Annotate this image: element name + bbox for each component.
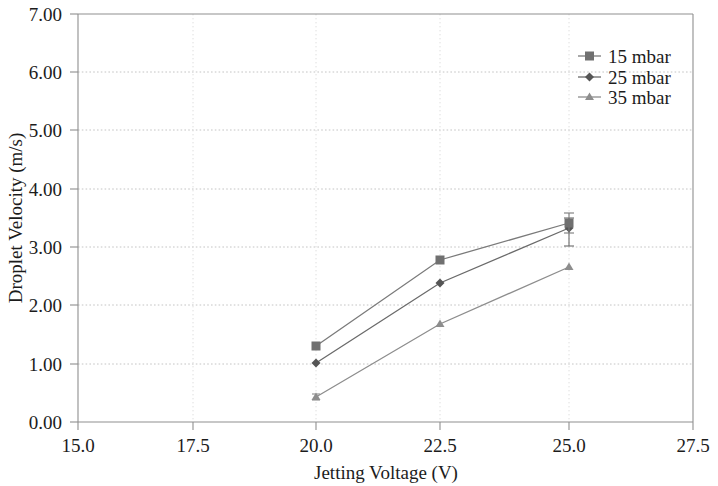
legend-label: 25 mbar [608, 67, 671, 88]
x-axis-title: Jetting Voltage (V) [314, 462, 458, 484]
y-tick-labels: 7.00 6.00 5.00 4.00 3.00 2.00 1.00 0.00 [29, 4, 62, 433]
data-point-marker [565, 219, 574, 228]
legend-label: 35 mbar [608, 87, 671, 108]
x-tick-label: 20.0 [299, 435, 332, 456]
y-tick-label: 7.00 [29, 4, 62, 25]
chart-legend: 15 mbar 25 mbar 35 mbar [578, 46, 671, 108]
legend-label: 15 mbar [608, 46, 671, 67]
chart-container: 7.00 6.00 5.00 4.00 3.00 2.00 1.00 0.00 … [0, 0, 718, 486]
x-axis-ticks [78, 422, 693, 430]
y-axis-title: Droplet Velocity (m/s) [5, 133, 27, 304]
y-tick-label: 4.00 [29, 179, 62, 200]
y-tick-label: 2.00 [29, 295, 62, 316]
y-tick-label: 1.00 [29, 354, 62, 375]
y-axis-ticks [70, 14, 78, 422]
x-tick-label: 17.5 [176, 435, 209, 456]
y-tick-label: 3.00 [29, 237, 62, 258]
x-tick-label: 27.5 [676, 435, 709, 456]
droplet-velocity-line-chart: 7.00 6.00 5.00 4.00 3.00 2.00 1.00 0.00 … [0, 0, 718, 486]
square-marker-icon [585, 52, 594, 61]
data-point-marker [436, 256, 445, 265]
x-tick-label: 25.0 [552, 435, 585, 456]
x-tick-label: 22.5 [423, 435, 456, 456]
plot-area-background [78, 14, 693, 422]
y-tick-label: 5.00 [29, 120, 62, 141]
x-tick-labels: 15.0 17.5 20.0 22.5 25.0 27.5 [61, 435, 709, 456]
y-tick-label: 0.00 [29, 412, 62, 433]
y-tick-label: 6.00 [29, 62, 62, 83]
x-tick-label: 15.0 [61, 435, 94, 456]
data-point-marker [312, 342, 321, 351]
